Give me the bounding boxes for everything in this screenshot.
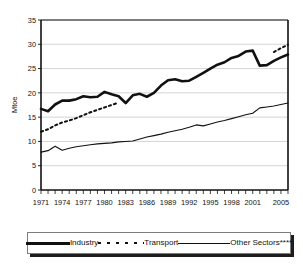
x-tick-label: 1992 [181,198,197,207]
legend-label-transport: Transport [144,239,178,247]
legend-item-transport: Transport [98,239,178,247]
y-tick-label: 25 [28,64,36,73]
y-tick-label: 15 [28,113,36,122]
y-tick-label: 5 [32,161,36,170]
dotted-line-swatch-icon [98,239,144,247]
legend-item-other-sectors: Other Sectors**** [178,239,292,247]
x-tick-label: 2001 [244,198,260,207]
y-tick-label: 35 [28,16,36,25]
y-tick-label: 20 [28,89,36,98]
x-tick-label: 1980 [96,198,112,207]
y-tick-label: 0 [32,186,36,195]
thick-solid-line-swatch-icon [26,239,70,247]
x-tick-label: 1986 [139,198,155,207]
x-tick-label: 1977 [75,198,91,207]
y-tick-label: 10 [28,137,36,146]
y-axis-title: Mtoe [10,97,19,113]
legend-item-industry: Industry [26,239,98,247]
chart-legend: Industry Transport Other Sectors**** [27,232,291,254]
x-tick-label: 1995 [202,198,218,207]
chart-screenshot-root: 05101520253035 Mtoe 19711974197719801983… [0,0,303,270]
plot-area-background [41,20,288,190]
x-tick-label: 1989 [160,198,176,207]
y-axis-tick-labels: 05101520253035 [28,16,41,195]
x-tick-label: 1971 [33,198,49,207]
x-tick-label: 1983 [117,198,133,207]
x-tick-label: 1974 [54,198,70,207]
x-tick-label: 2005 [273,198,289,207]
chart-canvas: 05101520253035 Mtoe 19711974197719801983… [0,0,303,212]
legend-label-industry: Industry [70,239,98,247]
y-tick-label: 30 [28,40,36,49]
x-tick-label: 1998 [223,198,239,207]
line-chart-figure: 05101520253035 Mtoe 19711974197719801983… [0,0,303,212]
legend-label-other-sectors: Other Sectors**** [230,239,292,247]
thin-solid-line-swatch-icon [178,239,230,247]
x-axis-tick-labels: 1971197419771980198319861989199219951998… [33,198,289,207]
